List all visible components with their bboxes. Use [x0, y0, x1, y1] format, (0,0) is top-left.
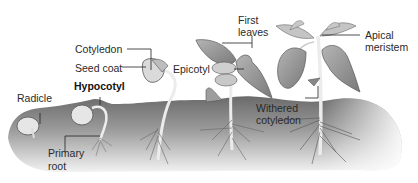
label-seed-coat: Seed coat	[75, 62, 122, 74]
label-epicotyl: Epicotyl	[173, 63, 210, 75]
label-apical-meristem-line2: meristem	[365, 41, 408, 53]
label-first-leaves-line2: leaves	[238, 26, 268, 38]
label-radicle: Radicle	[17, 92, 52, 104]
seed-germination-diagram: Cotyledon Seed coat Hypocotyl Radicle Pr…	[0, 0, 418, 183]
label-withered-cotyledon-line2: cotyledon	[256, 114, 301, 126]
label-cotyledon: Cotyledon	[75, 43, 122, 55]
label-primary-root-line2: root	[48, 160, 66, 172]
label-apical-meristem-line1: Apical	[365, 29, 394, 41]
label-hypocotyl: Hypocotyl	[74, 80, 125, 92]
label-first-leaves-line1: First	[238, 14, 258, 26]
label-primary-root-line1: Primary	[48, 147, 84, 159]
label-withered-cotyledon-line1: Withered	[256, 102, 298, 114]
